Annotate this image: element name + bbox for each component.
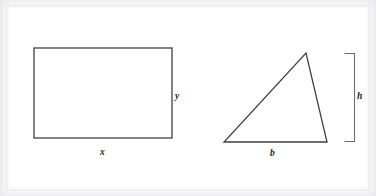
rectangle-height-label: y — [175, 92, 179, 102]
height-bracket-shape — [345, 54, 355, 142]
rectangle-shape — [34, 48, 172, 138]
geometry-diagram — [0, 0, 376, 196]
triangle-shape — [224, 53, 327, 142]
triangle-base-label: b — [270, 149, 275, 159]
rectangle-width-label: x — [100, 148, 105, 158]
triangle-height-label: h — [357, 92, 362, 102]
figure-canvas: x y b h — [0, 0, 376, 196]
